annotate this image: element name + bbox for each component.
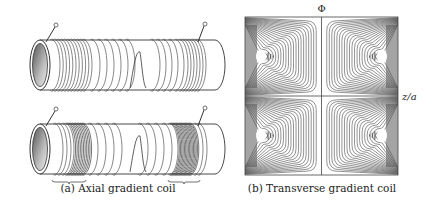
phi-axis-label: Φ [317, 3, 325, 14]
dense-winding-region [386, 104, 398, 167]
terminal-left [54, 23, 58, 27]
figure-canvas: (a) Axial gradient coil Φ z/a (b) Transv… [0, 0, 438, 209]
caption-axial: (a) Axial gradient coil [60, 182, 176, 194]
contour-eye [377, 129, 387, 143]
terminal-left [54, 107, 58, 111]
tube-end-inner [33, 44, 48, 87]
terminal-right [203, 22, 207, 26]
z-axis-label: z/a [401, 91, 417, 102]
contour-eye [377, 50, 387, 64]
dense-winding-region [245, 25, 257, 88]
transverse-coil-panel: Φ z/a [245, 3, 417, 175]
dense-winding-region [245, 104, 257, 167]
contour-eye [256, 129, 266, 143]
tube-end-inner [33, 128, 48, 171]
axial-coil-bottom [30, 106, 225, 184]
caption-transverse: (b) Transverse gradient coil [248, 182, 397, 194]
terminal-right [203, 106, 207, 110]
dense-winding-region [386, 25, 398, 88]
contour-eye [256, 50, 266, 64]
axial-coil-top [30, 22, 225, 92]
